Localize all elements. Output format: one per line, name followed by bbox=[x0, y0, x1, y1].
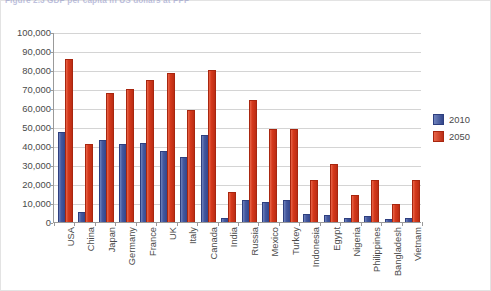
y-axis-tick-label: 80,000 bbox=[3, 66, 51, 75]
plot-area bbox=[53, 33, 421, 223]
bar-2050 bbox=[371, 180, 379, 222]
x-axis-label-mexico: Mexico bbox=[271, 227, 280, 256]
bar-2050 bbox=[269, 129, 277, 222]
x-axis-tick bbox=[177, 222, 178, 226]
y-axis-tick-label: 50,000 bbox=[3, 123, 51, 132]
x-axis-label-egypt: Egypt bbox=[333, 227, 342, 251]
legend-swatch-2050 bbox=[433, 131, 444, 142]
x-axis-label-germany: Germany bbox=[128, 227, 137, 265]
x-axis-label-canada: Canada bbox=[210, 227, 219, 260]
chart-frame: Figure 2.3 GDP per capita in US dollars … bbox=[0, 0, 491, 291]
x-axis-label-usa: USA bbox=[67, 227, 76, 246]
x-axis-tick bbox=[279, 222, 280, 226]
legend-item-2050: 2050 bbox=[433, 131, 489, 142]
x-axis-label-nigeria: Nigeria bbox=[353, 227, 362, 256]
y-axis-tick-label: 90,000 bbox=[3, 47, 51, 56]
x-axis-label-india: India bbox=[230, 227, 239, 247]
bar-2050 bbox=[249, 100, 257, 222]
x-axis-tick bbox=[422, 222, 423, 226]
x-axis-tick bbox=[402, 222, 403, 226]
legend-item-2010: 2010 bbox=[433, 114, 489, 125]
x-axis-label-japan: Japan bbox=[108, 227, 117, 252]
x-axis-label-indonesia: Indonesia bbox=[312, 227, 321, 267]
legend-label-2050: 2050 bbox=[449, 132, 470, 141]
x-axis-tick bbox=[95, 222, 96, 226]
bar-2050 bbox=[65, 59, 73, 222]
x-axis-label-vietnam: Vietnam bbox=[414, 227, 423, 261]
x-axis-tick bbox=[340, 222, 341, 226]
bar-2050 bbox=[106, 93, 114, 222]
x-axis-label-russia: Russia bbox=[251, 227, 260, 255]
x-axis-label-philippines: Philippines bbox=[373, 227, 382, 272]
bar-2050 bbox=[167, 73, 175, 222]
bar-2050 bbox=[126, 89, 134, 222]
x-axis-tick bbox=[299, 222, 300, 226]
y-axis-tick-label: 70,000 bbox=[3, 85, 51, 94]
x-axis-tick bbox=[74, 222, 75, 226]
x-axis-tick bbox=[156, 222, 157, 226]
bar-2050 bbox=[412, 180, 420, 222]
legend-swatch-2010 bbox=[433, 114, 444, 125]
bar-2050 bbox=[85, 144, 93, 222]
x-axis-labels: USAChinaJapanGermanyFranceUKItalyCanadaI… bbox=[53, 227, 421, 291]
x-axis-label-turkey: Turkey bbox=[292, 227, 301, 255]
chart-legend: 2010 2050 bbox=[433, 114, 489, 148]
x-axis-label-china: China bbox=[87, 227, 96, 251]
y-axis-tick-label: 30,000 bbox=[3, 161, 51, 170]
y-axis: 010,00020,00030,00040,00050,00060,00070,… bbox=[1, 1, 51, 261]
y-axis-tick-label: 40,000 bbox=[3, 142, 51, 151]
x-axis-tick bbox=[218, 222, 219, 226]
bar-series-container bbox=[54, 33, 421, 222]
x-axis-label-france: France bbox=[149, 227, 158, 256]
x-axis-tick bbox=[238, 222, 239, 226]
bar-2050 bbox=[330, 164, 338, 222]
x-axis-tick bbox=[115, 222, 116, 226]
bar-2050 bbox=[208, 70, 216, 222]
bar-2050 bbox=[290, 129, 298, 222]
x-axis-tick bbox=[136, 222, 137, 226]
x-axis-tick bbox=[258, 222, 259, 226]
y-axis-tick-label: 10,000 bbox=[3, 199, 51, 208]
y-axis-tick-label: 0 bbox=[3, 218, 51, 227]
x-axis-label-italy: Italy bbox=[189, 227, 198, 244]
bar-2050 bbox=[351, 195, 359, 222]
x-axis-tick bbox=[54, 222, 55, 226]
x-axis-tick bbox=[361, 222, 362, 226]
y-axis-tick-label: 100,000 bbox=[3, 28, 51, 37]
x-axis-label-uk: UK bbox=[169, 227, 178, 240]
y-axis-tick-label: 60,000 bbox=[3, 104, 51, 113]
x-axis-tick bbox=[320, 222, 321, 226]
bar-2050 bbox=[146, 80, 154, 222]
bar-2050 bbox=[310, 180, 318, 222]
y-axis-tick bbox=[50, 223, 53, 224]
x-axis-tick bbox=[197, 222, 198, 226]
bar-2050 bbox=[392, 204, 400, 222]
y-axis-tick-label: 20,000 bbox=[3, 180, 51, 189]
bar-2050 bbox=[228, 192, 236, 222]
legend-label-2010: 2010 bbox=[449, 115, 470, 124]
x-axis-tick bbox=[381, 222, 382, 226]
x-axis-label-bangladesh: Bangladesh bbox=[394, 227, 403, 276]
bar-2050 bbox=[187, 110, 195, 222]
